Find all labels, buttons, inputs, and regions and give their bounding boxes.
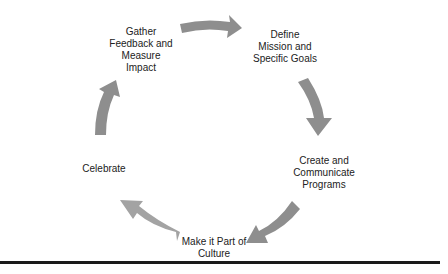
cycle-arrows (0, 0, 448, 274)
step-gather-feedback: Gather Feedback and Measure Impact (106, 26, 176, 74)
arrow-gather-to-define-icon (180, 15, 242, 38)
step-define-line-1: Define (250, 29, 320, 41)
cycle-diagram: Define Mission and Specific Goals Create… (0, 0, 448, 274)
step-create-line-1: Create and (287, 155, 361, 167)
step-culture-line-2: Culture (176, 248, 252, 260)
step-create-line-3: Programs (287, 179, 361, 191)
arrow-culture-to-celebrate-icon (120, 200, 180, 241)
arrow-define-to-create-icon (298, 78, 332, 136)
step-culture-line-1: Make it Part of (176, 236, 252, 248)
step-define-line-3: Specific Goals (250, 53, 320, 65)
arrow-create-to-culture-icon (246, 201, 300, 243)
bottom-divider (0, 261, 440, 264)
step-gather-line-3: Measure (106, 50, 176, 62)
step-create-line-2: Communicate (287, 167, 361, 179)
step-make-culture: Make it Part of Culture (176, 236, 252, 260)
step-define-mission: Define Mission and Specific Goals (250, 29, 320, 65)
step-celebrate-line-1: Celebrate (74, 163, 134, 175)
step-create-programs: Create and Communicate Programs (287, 155, 361, 191)
step-celebrate: Celebrate (74, 163, 134, 175)
step-gather-line-1: Gather (106, 26, 176, 38)
step-gather-line-2: Feedback and (106, 38, 176, 50)
step-define-line-2: Mission and (250, 41, 320, 53)
arrow-celebrate-to-gather-icon (95, 80, 120, 135)
step-gather-line-4: Impact (106, 62, 176, 74)
